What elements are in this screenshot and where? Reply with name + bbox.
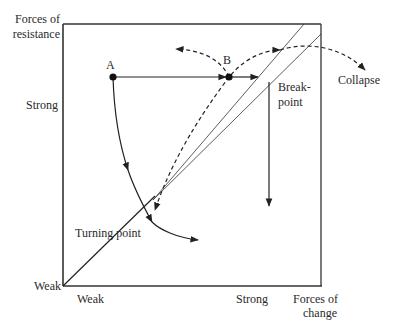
x-axis-title-line1: Forces of xyxy=(293,292,338,306)
point-a-label: A xyxy=(106,58,115,72)
dashed-curve-b-to-turning-point xyxy=(155,77,229,210)
point-b-label: B xyxy=(223,53,231,67)
y-axis-title-line1: Forces of xyxy=(0,12,60,26)
upper-boundary-line xyxy=(153,24,304,200)
balance-diagonal xyxy=(63,196,155,286)
curve-continuation-2 xyxy=(152,222,198,240)
curve-continuation-1 xyxy=(128,170,152,222)
point-a xyxy=(109,73,116,80)
breakpoint-label-line2: point xyxy=(278,95,303,109)
x-axis-strong-label: Strong xyxy=(236,292,268,306)
lower-boundary-line xyxy=(153,34,321,200)
curve-a-to-turning-point xyxy=(113,77,128,170)
point-b xyxy=(225,73,232,80)
dashed-curve-b-up-left xyxy=(176,49,229,77)
dashed-curve-collapse xyxy=(280,46,365,70)
y-axis-weak-label: Weak xyxy=(0,279,61,293)
turning-point-label: Turning point xyxy=(75,226,141,240)
collapse-label: Collapse xyxy=(338,73,380,87)
x-axis-title-line2: change xyxy=(303,306,337,320)
breakpoint-label-line1: Break- xyxy=(278,80,311,94)
dashed-curve-b-to-collapse xyxy=(231,50,280,75)
y-axis-strong-label: Strong xyxy=(0,98,58,112)
x-axis-weak-label: Weak xyxy=(77,292,104,306)
y-axis-title-line2: resistance xyxy=(0,27,60,41)
plot-frame xyxy=(63,24,322,286)
